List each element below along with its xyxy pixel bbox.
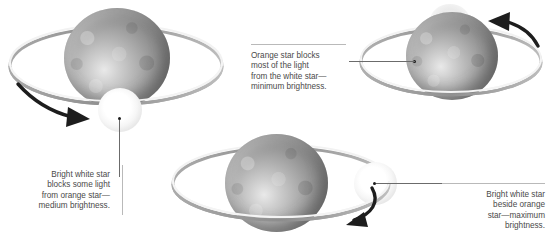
orbit-direction-arrow-right-icon: [168, 128, 418, 248]
star-system-top-left: [0, 0, 230, 145]
callout-medium-brightness: Bright white star blocks some light from…: [34, 165, 118, 212]
callout-line: minimum brightness.: [251, 82, 346, 92]
callout-line: medium brightness.: [34, 201, 110, 211]
diagram-canvas: Orange star blocks most of the light fro…: [0, 0, 557, 251]
callout-line: brightness.: [442, 221, 545, 231]
callout-line: Bright white star: [34, 170, 110, 180]
callout-minimum-brightness: Orange star blocks most of the light fro…: [251, 44, 346, 93]
leader-line-maximum: [376, 183, 442, 184]
callout-line: most of the light: [251, 61, 346, 71]
callout-line: from the white star—: [251, 72, 346, 82]
callout-line: beside orange: [442, 200, 545, 210]
callout-line: Bright white star: [442, 190, 545, 200]
callout-line: star—maximum: [442, 211, 545, 221]
callout-rule: [122, 165, 123, 215]
leader-line-minimum: [349, 61, 415, 62]
orbit-direction-arrow-right-icon: [0, 0, 230, 145]
leader-line-medium: [119, 120, 120, 177]
callout-line: from orange star—: [34, 191, 110, 201]
callout-line: Orange star blocks: [251, 51, 346, 61]
callout-maximum-brightness: Bright white star beside orange star—max…: [442, 183, 545, 232]
callout-line: blocks some light: [34, 180, 110, 190]
star-system-bottom-center: [168, 128, 418, 248]
